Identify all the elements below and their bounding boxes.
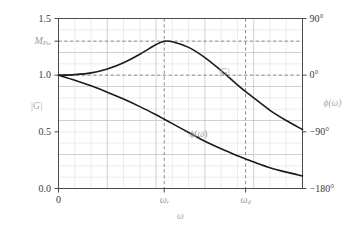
- phase-curve-label: ϕ(ω): [189, 130, 207, 140]
- x-tick-wd-sub: d: [248, 198, 251, 205]
- y-axis-right-title-close: ): [338, 98, 341, 108]
- y-tick-1-0: 1.0: [39, 70, 52, 80]
- x-tick-wd-base: ω: [241, 194, 248, 205]
- plot-canvas: [0, 0, 361, 226]
- x-tick-0: 0: [56, 195, 61, 205]
- y-axis-right-title: ϕ(ω): [324, 99, 342, 109]
- y-tick-resonant-peak-sub: Pω: [43, 39, 51, 46]
- x-axis-title: ω: [177, 212, 184, 222]
- x-tick-resonant-frequency: ωr: [160, 195, 169, 206]
- y-tick-resonant-peak: MPω: [35, 36, 52, 47]
- frequency-response-chart: 1.5 MPω 1.0 0.5 0.0 |G| 90° 0° −90° −180…: [0, 0, 361, 226]
- y-axis-left-title: |G|: [31, 102, 43, 112]
- y-tick-resonant-peak-base: M: [35, 35, 43, 46]
- phase-curve-label-close: ): [204, 129, 207, 139]
- y-tick-0-5: 0.5: [39, 127, 52, 137]
- y-tick-0-0: 0.0: [39, 184, 52, 194]
- x-tick-damped-frequency: ωd: [241, 195, 251, 206]
- magnitude-curve: [59, 41, 303, 130]
- y2-tick-minus-180: −180°: [310, 184, 335, 194]
- phase-curve: [59, 75, 303, 176]
- x-tick-wr-sub: r: [167, 198, 169, 205]
- magnitude-curve-label: |G|: [219, 68, 230, 78]
- x-tick-wr-base: ω: [160, 194, 167, 205]
- y2-tick-minus-90: −90°: [310, 127, 330, 137]
- y2-tick-0: 0°: [310, 70, 319, 80]
- y-tick-1-5: 1.5: [39, 14, 52, 24]
- y2-tick-90: 90°: [310, 14, 324, 24]
